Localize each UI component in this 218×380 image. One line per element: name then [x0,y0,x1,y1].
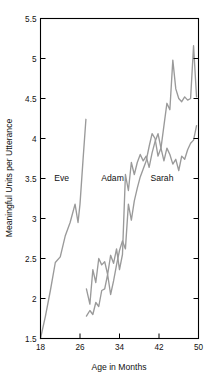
series-label-eve: Eve [54,173,69,183]
x-tick-label: 50 [194,343,204,352]
x-tick-label: 26 [75,343,85,352]
figure-container: 1.522.533.544.555.5 1826344250 EveAdamSa… [0,0,218,380]
y-tick-label: 4.5 [25,95,37,104]
y-tick-label: 2 [32,295,37,304]
x-tick-label: 42 [154,343,164,352]
y-tick-label: 5 [32,55,37,64]
line-chart: 1.522.533.544.555.5 1826344250 EveAdamSa… [0,0,218,380]
y-axis-title: Meaningful Units per Utterance [4,119,14,238]
x-axis-title: Age in Months [92,362,147,372]
series-label-adam: Adam [101,173,123,183]
y-tick-label: 5.5 [25,15,37,24]
series-label-sarah: Sarah [150,173,173,183]
x-tick-label: 18 [36,343,46,352]
y-tick-label: 2.5 [25,255,37,264]
y-tick-label: 3 [32,215,37,224]
x-tick-label: 34 [115,343,125,352]
y-tick-label: 4 [32,135,37,144]
y-tick-label: 3.5 [25,175,37,184]
